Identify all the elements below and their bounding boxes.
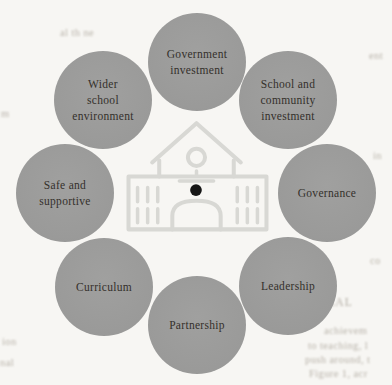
node-safe-and-supportive: Safe and supportive <box>16 144 114 242</box>
scan-bleed-fragment: co <box>370 255 381 266</box>
node-school-and-community-investment: School and community investment <box>239 51 337 149</box>
scan-bleed-fragment: in <box>373 150 382 161</box>
scan-bleed-fragment: Figure 1, acr <box>309 368 368 379</box>
scan-bleed-fragment: achievem <box>324 325 367 336</box>
node-government-investment: Government investment <box>148 13 246 111</box>
school-building-icon <box>126 119 269 232</box>
scan-bleed-fragment: al th ne <box>60 27 94 38</box>
right-windows <box>237 188 257 223</box>
scan-bleed-fragment: nal <box>0 357 14 368</box>
scan-bleed-fragment: ion <box>2 336 17 347</box>
scan-bleed-fragment: ent <box>369 50 383 61</box>
scan-bleed-fragment: push around, t <box>305 354 370 365</box>
node-label: Governance <box>298 185 357 201</box>
scan-bleed-fragment: m <box>1 108 10 119</box>
book-page-scan: al th ne ent m in co HEAL achievem to te… <box>0 0 392 385</box>
roof-outline <box>152 123 241 162</box>
node-label: Curriculum <box>76 279 132 295</box>
node-wider-school-environment: Wider school environment <box>54 51 152 149</box>
node-partnership: Partnership <box>148 276 246 374</box>
node-curriculum: Curriculum <box>55 238 153 336</box>
node-label: Safe and supportive <box>39 177 91 209</box>
round-window <box>188 149 205 166</box>
node-leadership: Leadership <box>239 237 337 335</box>
node-label: School and community investment <box>260 76 315 124</box>
scan-bleed-fragment: to teaching, l <box>308 340 368 351</box>
node-label: Partnership <box>169 317 225 333</box>
arched-door <box>172 201 220 230</box>
left-windows <box>138 188 158 223</box>
node-label: Wider school environment <box>72 76 133 124</box>
node-governance: Governance <box>278 144 376 242</box>
node-label: Government investment <box>167 46 227 78</box>
node-label: Leadership <box>261 278 315 294</box>
entrance-dot <box>190 184 202 196</box>
